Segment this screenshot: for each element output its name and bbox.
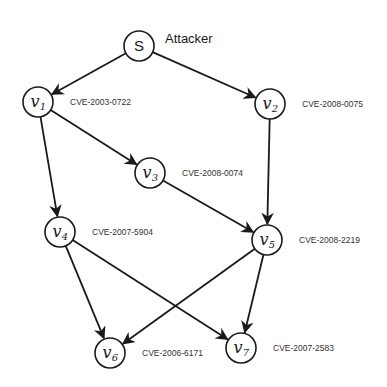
cve-label: CVE-2003-0722 <box>70 97 131 107</box>
node-subscript: 2 <box>271 103 278 114</box>
attack-graph: Sv1CVE-2003-0722v2CVE-2008-0075v3CVE-200… <box>0 0 387 387</box>
edges-group <box>41 52 270 344</box>
node-v1: v1CVE-2003-0722 <box>23 87 131 117</box>
node-label: v <box>30 92 39 111</box>
node-S: S <box>124 31 154 61</box>
node-subscript: 6 <box>112 352 119 363</box>
node-label: v <box>262 94 271 113</box>
node-label: v <box>259 230 268 249</box>
node-label: v <box>142 163 151 182</box>
node-label: v <box>233 338 242 357</box>
cve-label: CVE-2008-0075 <box>302 99 363 109</box>
node-label: v <box>52 222 61 241</box>
edge-v5-to-v7 <box>245 255 264 333</box>
node-subscript: 5 <box>269 239 275 250</box>
edge-S-to-v2 <box>153 52 256 97</box>
attacker-label: Attacker <box>165 31 213 46</box>
node-subscript: 3 <box>152 172 158 183</box>
node-label: S <box>134 37 144 54</box>
node-v7: v7CVE-2007-2583 <box>226 333 334 363</box>
node-label: v <box>102 343 111 362</box>
edge-v4-to-v6 <box>66 246 104 338</box>
node-v2: v2CVE-2008-0075 <box>255 89 363 119</box>
edge-v2-to-v5 <box>267 119 269 224</box>
edge-v1-to-v3 <box>51 110 137 164</box>
node-subscript: 7 <box>243 347 250 358</box>
node-subscript: 1 <box>40 101 46 112</box>
node-v6: v6CVE-2006-6171 <box>95 338 203 368</box>
node-v3: v3CVE-2008-0074 <box>135 158 243 188</box>
node-subscript: 4 <box>61 231 68 242</box>
edge-S-to-v1 <box>52 53 126 94</box>
edge-v3-to-v5 <box>163 180 253 232</box>
cve-label: CVE-2007-5904 <box>92 227 153 237</box>
edge-v5-to-v6 <box>123 249 255 344</box>
cve-label: CVE-2007-2583 <box>273 343 334 353</box>
edge-v1-to-v4 <box>41 117 58 216</box>
node-v5: v5CVE-2008-2219 <box>252 225 360 255</box>
cve-label: CVE-2006-6171 <box>142 348 203 358</box>
node-v4: v4CVE-2007-5904 <box>45 217 153 247</box>
cve-label: CVE-2008-2219 <box>299 235 360 245</box>
cve-label: CVE-2008-0074 <box>182 168 243 178</box>
